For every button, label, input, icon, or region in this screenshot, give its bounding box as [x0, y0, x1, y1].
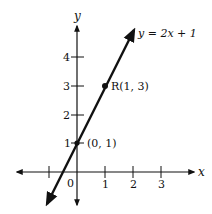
point-r: [102, 83, 108, 89]
y-tick-label-4: 4: [63, 51, 70, 64]
x-tick-label-3: 3: [158, 178, 165, 191]
point-r-label: R(1, 3): [111, 80, 149, 93]
y-axis-label: y: [73, 9, 81, 23]
x-axis-label: x: [198, 165, 205, 179]
x-tick-label-1: 1: [102, 178, 109, 191]
graph-canvas: y x 0 1 2 3 4 3 2 1 y = 2x + 1 R(1, 3) (…: [0, 0, 212, 214]
line-y-equals-2x-plus-1: [47, 30, 134, 204]
origin-label: 0: [67, 177, 74, 190]
y-tick-label-2: 2: [63, 109, 70, 122]
point-intercept-label: (0, 1): [87, 137, 117, 150]
point-intercept: [74, 140, 79, 145]
y-tick-label-1: 1: [64, 137, 71, 150]
y-tick-label-3: 3: [63, 80, 70, 93]
equation-label: y = 2x + 1: [137, 27, 197, 40]
x-tick-label-2: 2: [130, 178, 137, 191]
